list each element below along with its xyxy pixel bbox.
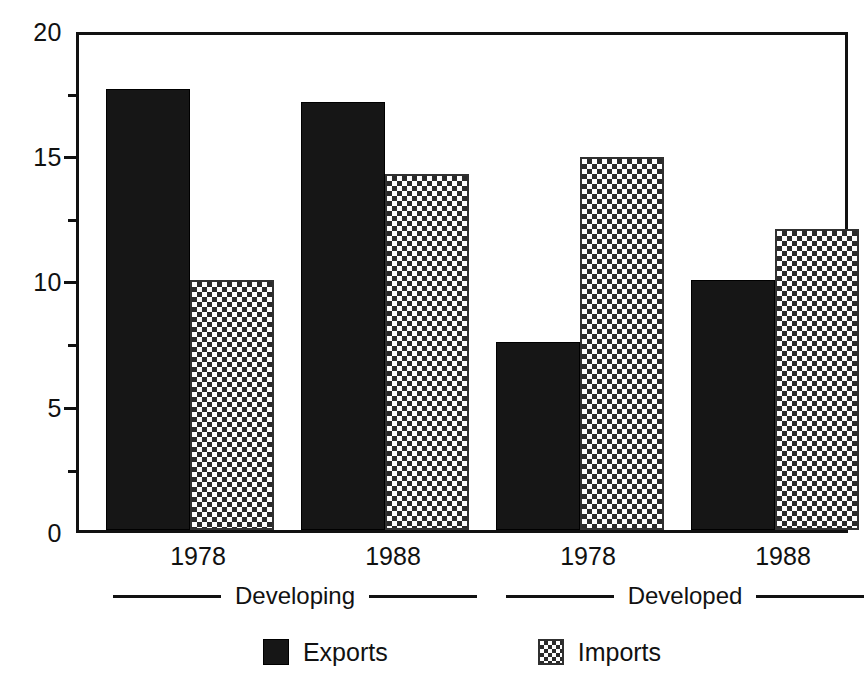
bar-developed-1978-exports [496, 342, 580, 530]
group-rule-right-icon [756, 595, 864, 598]
bar-chart-figure: 20 15 10 5 0 1978 1988 1978 1988 [0, 0, 864, 699]
bar-developing-1988-exports [301, 102, 385, 530]
y-minor-tick-mark-7-5 [68, 344, 76, 347]
y-tick-label-10: 10 [0, 270, 62, 295]
y-tick-mark-15 [64, 156, 76, 159]
y-minor-tick-mark-17-5 [68, 94, 76, 97]
group-rule-left-icon [506, 595, 614, 598]
bar-developing-1978-exports [106, 89, 190, 530]
group-rule-left-icon [113, 595, 221, 598]
y-minor-tick-mark-12-5 [68, 219, 76, 222]
y-tick-label-20: 20 [0, 20, 62, 45]
group-label-developing: Developing [235, 583, 355, 609]
y-minor-tick-mark-2-5 [68, 470, 76, 473]
x-tick-label-developed-1988: 1988 [728, 542, 838, 570]
plot-frame [76, 32, 848, 533]
chart-legend: Exports Imports [76, 628, 848, 676]
y-axis: 20 15 10 5 0 [0, 0, 62, 699]
x-tick-label-developing-1988: 1988 [338, 542, 448, 570]
bar-developed-1988-exports [691, 280, 775, 531]
legend-swatch-crosshatch-icon [538, 639, 564, 665]
bar-developed-1978-imports [580, 157, 664, 530]
legend-label-imports: Imports [578, 639, 661, 666]
y-tick-label-15: 15 [0, 145, 62, 170]
y-tick-label-5: 5 [0, 396, 62, 421]
y-tick-label-0: 0 [0, 521, 62, 546]
legend-label-exports: Exports [303, 639, 388, 666]
bar-developing-1988-imports [385, 174, 469, 530]
y-tick-mark-10 [64, 281, 76, 284]
group-rule-right-icon [369, 595, 477, 598]
plot-area [79, 35, 845, 530]
y-tick-mark-5 [64, 407, 76, 410]
legend-swatch-solid-black-icon [263, 639, 289, 665]
bar-developed-1988-imports [775, 229, 859, 530]
x-tick-label-developed-1978: 1978 [533, 542, 643, 570]
group-label-developed: Developed [628, 583, 743, 609]
group-band-developing: Developing [100, 583, 490, 609]
x-tick-label-developing-1978: 1978 [143, 542, 253, 570]
group-band-developed: Developed [490, 583, 864, 609]
legend-entry-imports: Imports [538, 639, 661, 666]
legend-entry-exports: Exports [263, 639, 388, 666]
bar-developing-1978-imports [190, 280, 274, 531]
